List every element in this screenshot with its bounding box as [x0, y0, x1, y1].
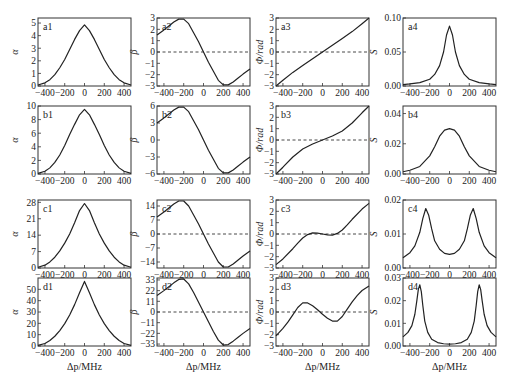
y-tick-label: −14	[140, 257, 155, 267]
y-tick-label: 0	[150, 47, 155, 57]
y-tick-label: 0	[31, 263, 36, 273]
y-tick-label: 0.00	[384, 263, 401, 273]
y-tick-label: 0.00	[384, 341, 401, 351]
x-tick-label: −200	[174, 88, 194, 98]
panel-label: d2	[162, 281, 172, 292]
y-tick-label: 7	[150, 215, 155, 225]
data-curve	[403, 129, 496, 172]
x-tick-label: 0	[447, 88, 452, 98]
y-tick-label: 0.10	[384, 13, 401, 23]
y-tick-label: 3	[150, 13, 155, 23]
x-tick-label: 0	[82, 88, 87, 98]
y-axis-label: α	[9, 309, 20, 315]
panel-d3: −400−2000200400−3−2−10123Φ/radd3Δp/MHz	[254, 273, 369, 372]
y-tick-label: 1	[269, 36, 274, 46]
x-axis-label: Δp/MHz	[432, 361, 467, 372]
y-tick-label: 2	[150, 25, 155, 35]
y-tick-label: 6	[150, 101, 155, 111]
panel-c4: −400−20002004000.000.010.02Sc4	[368, 195, 496, 280]
y-tick-label: 0.03	[384, 273, 401, 283]
x-axis-label: Δp/MHz	[186, 361, 221, 372]
x-axis-label: Δp/MHz	[305, 361, 340, 372]
y-tick-label: −1	[264, 59, 274, 69]
x-tick-label: 200	[216, 88, 231, 98]
y-tick-label: −1	[264, 147, 274, 157]
y-tick-label: 3	[269, 13, 274, 23]
y-tick-label: 8	[31, 115, 36, 125]
y-tick-label: 20	[27, 319, 37, 329]
y-axis-label: β	[128, 137, 139, 143]
y-tick-label: 7	[31, 247, 36, 257]
y-tick-label: 0	[31, 81, 36, 91]
y-tick-label: −33	[140, 339, 155, 349]
y-tick-label: 3	[269, 101, 274, 111]
panel-d2: −400−2000200400−33−22−110112233βd2Δp/MHz	[128, 275, 250, 372]
x-tick-label: −200	[420, 348, 440, 358]
x-tick-label: 0	[320, 348, 325, 358]
y-axis-label: α	[9, 231, 20, 237]
y-tick-label: −2	[264, 252, 274, 262]
y-tick-label: 4	[31, 31, 36, 41]
x-tick-label: −200	[293, 176, 313, 186]
panel-a4: −400−20002004000.000.050.10Sa4	[368, 13, 496, 98]
panel-b3: −400−2000200400−3−2−10123Φ/radb3	[254, 101, 369, 186]
y-tick-label: −2	[145, 70, 155, 80]
y-axis-label: Φ/rad	[254, 299, 265, 324]
y-tick-label: 0	[31, 169, 36, 179]
panel-label: a3	[281, 21, 290, 32]
y-tick-label: 0	[150, 135, 155, 145]
data-curve	[403, 209, 496, 258]
panel-c2: −400−2000200400−14−70714βc2	[128, 200, 250, 280]
y-tick-label: 1	[150, 36, 155, 46]
x-tick-label: −400	[400, 176, 420, 186]
x-tick-label: 400	[355, 176, 370, 186]
y-tick-label: 10	[27, 101, 37, 111]
panel-label: d1	[43, 281, 53, 292]
x-tick-label: 0	[447, 348, 452, 358]
y-axis-label: β	[128, 231, 139, 237]
y-tick-label: 0.02	[384, 139, 401, 149]
panel-label: c3	[281, 203, 290, 214]
figure-grid: −400−2000200400012345αa1−400−2000200400−…	[0, 0, 511, 390]
x-tick-label: −400	[273, 348, 293, 358]
y-axis-label: S	[368, 50, 379, 55]
y-tick-label: 4	[31, 142, 36, 152]
x-tick-label: 400	[117, 88, 132, 98]
panel-b1: −400−20002004000246810αb1	[9, 101, 131, 186]
y-tick-label: 0.00	[384, 169, 401, 179]
y-tick-label: 21	[27, 214, 37, 224]
y-tick-label: −1	[264, 319, 274, 329]
x-tick-label: 200	[335, 176, 350, 186]
panel-label: c4	[408, 203, 417, 214]
data-curve	[403, 26, 496, 84]
x-tick-label: 0	[82, 348, 87, 358]
y-axis-label: α	[9, 49, 20, 55]
panel-c1: −400−200020040007142128αc1	[9, 198, 131, 280]
y-tick-label: −7	[145, 243, 155, 253]
y-tick-label: −11	[140, 318, 155, 328]
x-tick-label: 0	[201, 348, 206, 358]
panel-d4: −400−20002004000.000.010.020.03Sd4Δp/MHz	[368, 273, 496, 372]
y-tick-label: 50	[27, 285, 37, 295]
y-axis-label: S	[368, 232, 379, 237]
x-tick-label: 200	[97, 348, 112, 358]
panel-label: b4	[408, 109, 418, 120]
y-axis-label: S	[368, 310, 379, 315]
x-tick-label: −200	[174, 348, 194, 358]
x-tick-label: 400	[355, 88, 370, 98]
x-tick-label: 400	[355, 348, 370, 358]
y-tick-label: 0.02	[384, 195, 401, 205]
y-axis-label: S	[368, 138, 379, 143]
x-tick-label: −400	[400, 348, 420, 358]
y-tick-label: 3	[269, 273, 274, 283]
y-tick-label: −22	[140, 329, 155, 339]
x-tick-label: 0	[82, 176, 87, 186]
x-tick-label: −200	[174, 176, 194, 186]
y-tick-label: 0	[269, 135, 274, 145]
y-axis-label: Φ/rad	[254, 221, 265, 246]
panel-d1: −400−200020040001020304050αd1Δp/MHz	[9, 278, 131, 372]
x-tick-label: 200	[335, 348, 350, 358]
y-axis-label: β	[128, 309, 139, 315]
y-tick-label: 2	[31, 56, 36, 66]
y-axis-label: β	[128, 49, 139, 55]
